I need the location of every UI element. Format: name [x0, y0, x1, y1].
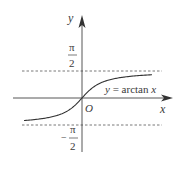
- y-axis-label: y: [67, 11, 74, 25]
- arctan-graph: y x O y = arctan x π 2 − π 2: [0, 0, 180, 173]
- curve-label: y = arctan x: [104, 83, 156, 95]
- upper-asymptote-denominator: 2: [69, 57, 75, 69]
- origin-label: O: [85, 102, 93, 114]
- lower-asymptote-numerator: π: [70, 123, 76, 135]
- upper-asymptote-numerator: π: [69, 41, 75, 53]
- lower-asymptote-denominator: 2: [70, 140, 76, 152]
- x-axis-label: x: [159, 102, 166, 116]
- lower-asymptote-sign: −: [61, 132, 67, 143]
